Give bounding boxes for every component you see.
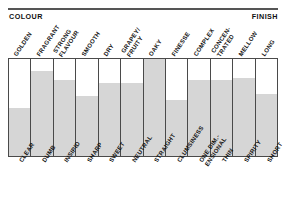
label-line: MELLOW [238, 31, 259, 58]
label-line: SMOOTH [80, 31, 101, 58]
top-label-10: MELLOW [238, 31, 259, 58]
tasting-profile-sheet: COLOUR FINISH GOLDENFRAGRANTSTRONGFLAVOU… [0, 0, 286, 210]
label-line: LONG [260, 39, 276, 58]
label-line: DRY [103, 43, 116, 58]
top-label-5: GRAPEY/FRUITY [120, 26, 147, 58]
top-divider [8, 8, 278, 10]
chart-column[interactable] [31, 59, 53, 156]
top-label-11: LONG [260, 39, 276, 58]
top-label-4: DRY [103, 43, 116, 58]
top-label-6: OAKY [148, 39, 164, 58]
bottom-axis-labels: CLEARDUMBINSIPIDSHARPSWEETNEUTRALSTRAIGH… [8, 158, 278, 208]
label-line: OAKY [148, 39, 164, 58]
top-axis-labels: GOLDENFRAGRANTSTRONGFLAVOURSMOOTHDRYGRAP… [8, 20, 278, 58]
label-line: FINESSE [170, 31, 191, 58]
chart-column[interactable] [233, 59, 255, 156]
top-label-3: SMOOTH [80, 31, 101, 58]
label-line: GOLDEN [13, 31, 34, 58]
chart-column[interactable] [121, 59, 143, 156]
top-label-0: GOLDEN [13, 31, 34, 58]
top-label-7: FINESSE [170, 31, 191, 58]
